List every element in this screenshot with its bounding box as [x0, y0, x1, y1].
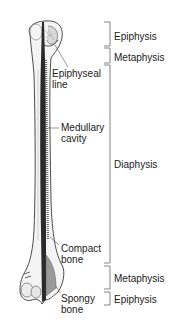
label-line: cavity [61, 133, 104, 144]
label-line: Compact [61, 243, 101, 254]
label-line: line [52, 79, 101, 90]
label-distal-metaphysis: Metaphysis [114, 273, 165, 284]
label-line: bone [61, 304, 95, 315]
label-line: Epiphyseal [52, 68, 101, 79]
label-line: bone [61, 254, 101, 265]
label-compact-bone: Compact bone [61, 243, 101, 265]
label-line: Spongy [61, 293, 95, 304]
label-distal-epiphysis: Epiphysis [114, 294, 157, 305]
region-brackets [104, 22, 110, 305]
label-medullary-cavity: Medullary cavity [61, 122, 104, 144]
label-proximal-epiphysis: Epiphysis [114, 31, 157, 42]
label-line: Medullary [61, 122, 104, 133]
label-spongy-bone: Spongy bone [61, 293, 95, 315]
epiphyseal-line-leader [55, 45, 68, 67]
label-epiphyseal-line: Epiphyseal line [52, 68, 101, 90]
bone-diagram: Epiphyseal line Medullary cavity Compact… [0, 0, 181, 330]
label-proximal-metaphysis: Metaphysis [114, 52, 165, 63]
label-diaphysis: Diaphysis [114, 159, 157, 170]
